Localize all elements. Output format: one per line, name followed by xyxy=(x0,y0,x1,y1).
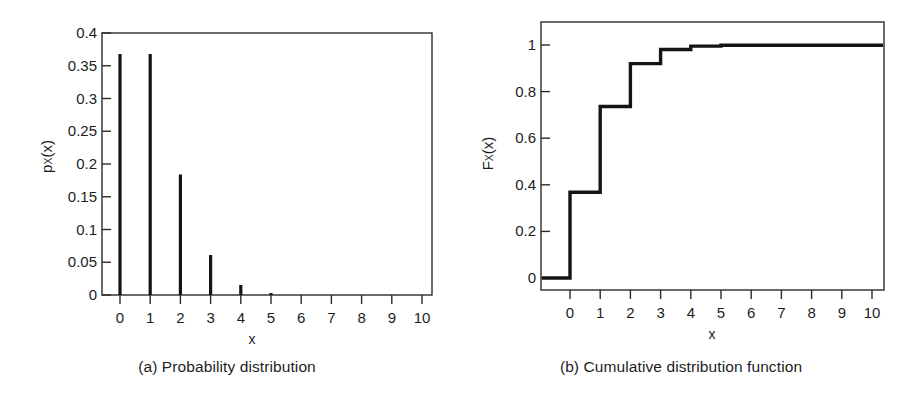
pmf-xtick-5: 5 xyxy=(267,309,275,326)
pmf-ytick-005: 0.05 xyxy=(68,253,97,270)
cdf-y-tick-labels: 0 0.2 0.4 0.6 0.8 1 xyxy=(515,36,536,286)
pmf-xtick-7: 7 xyxy=(327,309,335,326)
cdf-y-axis-title-sub: X xyxy=(483,154,495,161)
pmf-ytick-04: 0.4 xyxy=(76,24,97,41)
pmf-y-axis-title-arg: (x) xyxy=(38,140,55,158)
pmf-xtick-6: 6 xyxy=(297,309,305,326)
pmf-xtick-8: 8 xyxy=(357,309,365,326)
cdf-xtick-8: 8 xyxy=(807,304,815,321)
pmf-y-ticks xyxy=(102,33,111,295)
cdf-ytick-1: 1 xyxy=(528,36,536,53)
cdf-xtick-3: 3 xyxy=(656,304,664,321)
pmf-plot: 0 0.05 0.1 0.15 0.2 0.25 0.3 0.35 0.4 xyxy=(0,0,454,350)
cdf-y-axis-title-arg: (x) xyxy=(479,137,496,155)
pmf-y-axis-title-main: p xyxy=(38,165,55,173)
pmf-xtick-3: 3 xyxy=(206,309,214,326)
cdf-ytick-06: 0.6 xyxy=(515,129,536,146)
panel-probability-distribution: 0 0.05 0.1 0.15 0.2 0.25 0.3 0.35 0.4 xyxy=(0,0,454,410)
pmf-y-axis-title-sub: X xyxy=(42,158,54,165)
figure-poisson-distribution: 0 0.05 0.1 0.15 0.2 0.25 0.3 0.35 0.4 xyxy=(0,0,908,410)
panel-b-caption: (b) Cumulative distribution function xyxy=(454,358,908,376)
pmf-stems xyxy=(120,54,271,295)
pmf-ytick-025: 0.25 xyxy=(68,122,97,139)
pmf-x-ticks xyxy=(120,295,422,304)
cdf-ytick-08: 0.8 xyxy=(515,83,536,100)
pmf-xtick-9: 9 xyxy=(388,309,396,326)
cdf-x-axis-title: x xyxy=(692,326,732,342)
pmf-ytick-02: 0.2 xyxy=(76,155,97,172)
cdf-xtick-4: 4 xyxy=(687,304,695,321)
cdf-xtick-9: 9 xyxy=(838,304,846,321)
pmf-x-axis-title: x xyxy=(232,331,272,347)
cdf-xtick-2: 2 xyxy=(626,304,634,321)
cdf-y-axis-title-main: F xyxy=(479,161,496,170)
cdf-xtick-6: 6 xyxy=(747,304,755,321)
cdf-xtick-0: 0 xyxy=(566,304,574,321)
cdf-step-curve xyxy=(542,45,883,278)
panel-a-caption: (a) Probability distribution xyxy=(0,358,454,376)
cdf-x-ticks xyxy=(570,290,872,299)
cdf-xtick-10: 10 xyxy=(864,304,881,321)
pmf-y-tick-labels: 0 0.05 0.1 0.15 0.2 0.25 0.3 0.35 0.4 xyxy=(68,24,97,303)
cdf-y-ticks xyxy=(541,45,550,278)
pmf-xtick-4: 4 xyxy=(237,309,245,326)
pmf-ytick-015: 0.15 xyxy=(68,188,97,205)
pmf-ytick-03: 0.3 xyxy=(76,90,97,107)
cdf-xtick-7: 7 xyxy=(777,304,785,321)
cdf-ytick-02: 0.2 xyxy=(515,222,536,239)
cdf-xtick-1: 1 xyxy=(596,304,604,321)
pmf-x-tick-labels: 0 1 2 3 4 5 6 7 8 9 10 xyxy=(116,309,431,326)
cdf-plot: 0 0.2 0.4 0.6 0.8 1 xyxy=(454,0,908,350)
pmf-xtick-1: 1 xyxy=(146,309,154,326)
panel-cumulative-distribution-function: 0 0.2 0.4 0.6 0.8 1 xyxy=(454,0,908,410)
cdf-x-tick-labels: 0 1 2 3 4 5 6 7 8 9 10 xyxy=(566,304,881,321)
pmf-xtick-0: 0 xyxy=(116,309,124,326)
pmf-xtick-10: 10 xyxy=(414,309,431,326)
pmf-xtick-2: 2 xyxy=(176,309,184,326)
cdf-xtick-5: 5 xyxy=(717,304,725,321)
cdf-y-axis-title: FX(x) xyxy=(479,118,496,190)
pmf-ytick-0: 0 xyxy=(89,286,97,303)
pmf-ytick-01: 0.1 xyxy=(76,221,97,238)
cdf-plot-frame xyxy=(541,22,884,290)
pmf-y-axis-title: pX(x) xyxy=(38,122,55,192)
cdf-ytick-04: 0.4 xyxy=(515,176,536,193)
cdf-ytick-0: 0 xyxy=(528,269,536,286)
pmf-ytick-035: 0.35 xyxy=(68,57,97,74)
